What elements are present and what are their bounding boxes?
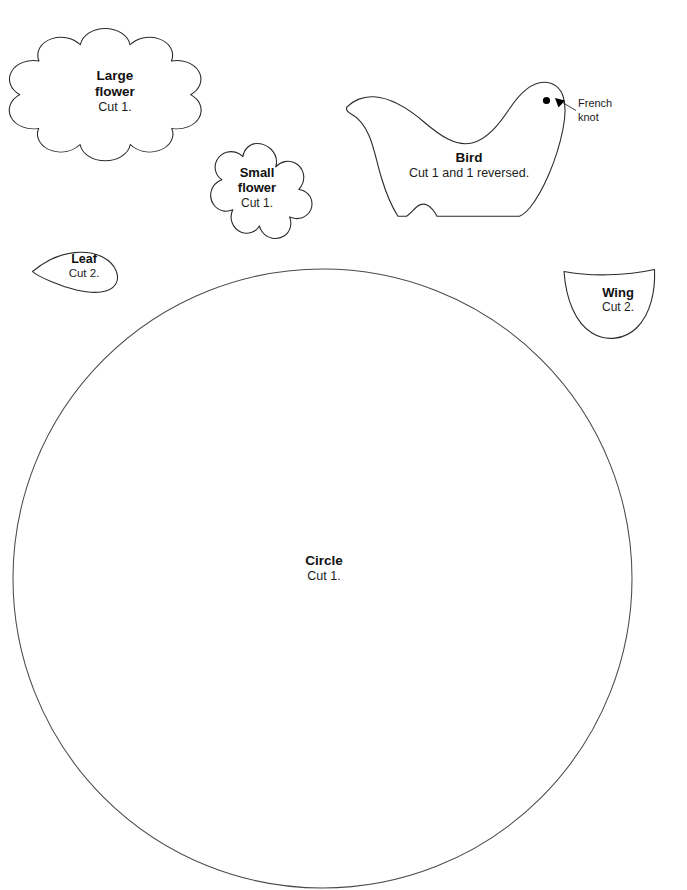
circle-title: Circle <box>272 553 376 569</box>
small-flower-cut: Cut 1. <box>204 196 310 210</box>
circle-cut: Cut 1. <box>272 569 376 584</box>
small-flower-title-line1: Small <box>204 165 310 180</box>
french-knot-line2: knot <box>578 110 642 124</box>
bird-title: Bird <box>378 150 560 166</box>
leaf-cut: Cut 2. <box>48 267 120 281</box>
small-flower-title-line2: flower <box>204 180 310 195</box>
wing-cut: Cut 2. <box>582 300 654 314</box>
wing-label: Wing Cut 2. <box>582 285 654 314</box>
french-knot-label: French knot <box>578 96 642 125</box>
large-flower-cut: Cut 1. <box>62 100 168 115</box>
pattern-sheet: Large flower Cut 1. Small flower Cut 1. … <box>0 0 687 890</box>
wing-title: Wing <box>582 285 654 300</box>
leaf-title: Leaf <box>48 252 120 267</box>
french-knot-line1: French <box>578 96 642 110</box>
large-flower-label: Large flower Cut 1. <box>62 68 168 115</box>
pattern-pieces-svg <box>0 0 687 890</box>
bird-label: Bird Cut 1 and 1 reversed. <box>378 150 560 181</box>
small-flower-label: Small flower Cut 1. <box>204 165 310 210</box>
bird-cut: Cut 1 and 1 reversed. <box>378 166 560 181</box>
french-knot-dot <box>543 97 550 104</box>
leaf-label: Leaf Cut 2. <box>48 252 120 280</box>
large-flower-title-line1: Large <box>62 68 168 84</box>
circle-label: Circle Cut 1. <box>272 553 376 584</box>
large-flower-title-line2: flower <box>62 84 168 100</box>
